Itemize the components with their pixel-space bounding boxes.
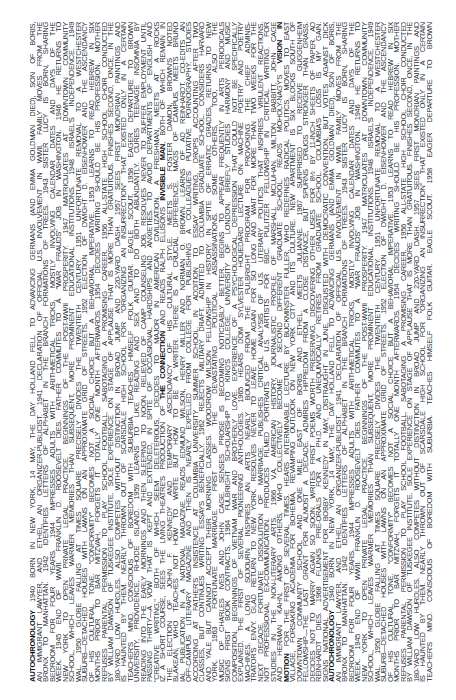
text-segment: REINHARDT DIES. 1968 FLUNKS PRE-ORALS FO… [316, 22, 323, 682]
text-line: VILLAGE, FORSAKING ACADEMIA FOR BOHEMIA,… [290, 22, 297, 682]
text-line: REINHARDT DIES. 1968 FLUNKS PRE-ORALS FO… [316, 22, 323, 682]
text-segment: 1940 BORN IN NEW YORK, 14 MAY, THE DAY H… [30, 22, 37, 610]
text-segment: AND READS RALPH ELLISON'S [160, 201, 167, 331]
text-segment: WEEK. 1945 END OF WWII. FRANKLIN D. ROOS… [56, 22, 63, 682]
highlighted-term: THE CONNECTION [160, 331, 167, 399]
text-line: WEEK. 1945 END OF WWII. FRANKLIN D. ROOS… [56, 22, 63, 682]
text-segment: SUBURB—DETACHED HOUSES WITH LAWNS ON AN … [381, 22, 388, 682]
text-line: AUTOCHRONOLOGY 1940 BORN IN NEW YORK, 14… [329, 22, 336, 682]
text-line: SUBURB—DETACHED HOUSES WITH LAWNS ON AN … [381, 22, 388, 682]
text-line: BRONX TO MANHATTAN. 1942 IDENTIFIES LETT… [43, 22, 50, 682]
text-line: IS HAUNTED BY THEM. NEARLY THROWN OUT OF… [121, 22, 128, 682]
text-segment: IS HAUNTED BY THEM. NEARLY THROWN OUT OF… [121, 22, 128, 682]
text-line: FELLOWSHIP—THE LAST GRANT FOR ALMOST A D… [303, 22, 310, 682]
document-page: AUTOCHRONOLOGY 1940 BORN IN NEW YORK, 14… [0, 0, 456, 700]
text-line: BRONX TO MANHATTAN. 1942 IDENTIFIES LETT… [342, 22, 349, 682]
text-segment: BRONX TO MANHATTAN. 1942 IDENTIFIES LETT… [43, 22, 50, 682]
text-segment: BRONX TO MANHATTAN. 1942 IDENTIFIES LETT… [342, 22, 349, 682]
text-segment: YORK. 1963 FORTUNATE MARRIAGE. FIRST OF … [212, 22, 219, 682]
text-line: UNIVERSITY, PROVIDENCE, RHODE ISLAND. 19… [134, 22, 141, 682]
text-segment: OFF-CAMPUS LITERARY MAGAZINE AND THEN IS… [186, 22, 193, 682]
text-line: BLAKEAN, WHO TEACHES NOT HOW TO WRITE BU… [173, 22, 180, 682]
text-segment: BY WILLIAM DAWSON OF TUSKEGEE INSTITUTE.… [108, 22, 115, 682]
text-segment: PASSING THIRTY—A VOW THAT IS KEPT AND EX… [147, 22, 154, 682]
text-line: SCHOOL, WHICH LEAVES WARMER MEMORIES THA… [69, 22, 76, 682]
text-line: MONTHS PRIOR TO BAR MITZVAH, FORGETS IT … [95, 22, 102, 682]
text-line: BY WILLIAM DAWSON OF TUSKEGEE INSTITUTE.… [407, 22, 414, 682]
text-segment: FELLOWSHIP—THE LAST GRANT FOR ALMOST A D… [303, 22, 310, 682]
highlighted-term: AUTOCHRONOLOGY [329, 610, 336, 682]
text-line: IS HAUNTED BY THEM. NEARLY THROWN OUT OF… [420, 22, 427, 682]
text-segment: VILLAGE, FORSAKING ACADEMIA FOR BOHEMIA,… [290, 22, 297, 682]
text-segment: SIGNS FIRST BOOK CONTRACTS. 1964 FULBRIG… [225, 22, 232, 682]
text-line: NOT PROFESSIONAL EX-COMMUNICATION. PRODU… [264, 22, 271, 682]
text-segment: UNIVERSITY, PROVIDENCE, RHODE ISLAND. 19… [134, 22, 141, 682]
text-segment: SCHOOL, WHICH LEAVES WARMER MEMORIES THA… [368, 22, 375, 682]
text-segment: NOT PROFESSIONAL EX-COMMUNICATION. PRODU… [264, 22, 271, 682]
highlighted-term: VISION IN [277, 22, 284, 64]
text-segment: AND HERMAN KAHN, AMONG OTHERS, WHO COLLE… [277, 64, 284, 682]
text-line: TRATOR'S ENVY. GLAD RETURN TO NEW YORK. … [251, 22, 258, 682]
highlighted-term: INVISIBLE MAN [160, 144, 167, 201]
text-line: CLASSES, BUT CONTINUES WRITING ESSAYS BE… [199, 22, 206, 682]
text-line: OFF-CAMPUS LITERARY MAGAZINE AND THEN IS… [186, 22, 193, 682]
text-line: WEEK. 1945 END OF WWII. FRANKLIN D. ROOS… [355, 22, 362, 682]
text-line: AUTOCHRONOLOGY 1940 BORN IN NEW YORK, 14… [30, 22, 37, 682]
text-segment: TRATOR'S ENVY. GLAD RETURN TO NEW YORK. … [251, 22, 258, 682]
text-segment: SUBURB—DETACHED HOUSES WITH LAWNS ON AN … [82, 22, 89, 682]
text-line: SIGNS FIRST BOOK CONTRACTS. 1964 FULBRIG… [225, 22, 232, 682]
text-line: BY WILLIAM DAWSON OF TUSKEGEE INSTITUTE.… [108, 22, 115, 682]
text-line: PASSING THIRTY—A VOW THAT IS KEPT AND EX… [147, 22, 154, 682]
text-line: AND HERMAN KAHN, AMONG OTHERS, WHO COLLE… [277, 22, 284, 682]
text-segment: 1940 BORN IN NEW YORK, 14 MAY, THE DAY H… [329, 22, 336, 610]
text-line: SUBURB—DETACHED HOUSES WITH LAWNS ON AN … [82, 22, 89, 682]
text-line: IZ A SHORT COURSE, SEES THE LIVING THEAT… [160, 22, 167, 682]
text-line: TEACHER'S MIND. CONSCIOUS OF BOREDOM WIT… [426, 22, 433, 682]
text-segment: TEACHER'S MIND. CONSCIOUS OF BOREDOM WIT… [426, 22, 433, 682]
text-line: YORK. 1963 FORTUNATE MARRIAGE. FIRST OF … [212, 22, 219, 682]
text-line: EXPLAINED. THE FIRST OF SEVERAL PIONEERI… [238, 22, 245, 682]
text-segment: IS HAUNTED BY THEM. NEARLY THROWN OUT OF… [420, 22, 427, 682]
text-segment: EXPLAINED. THE FIRST OF SEVERAL PIONEERI… [238, 22, 245, 682]
text-segment: BY WILLIAM DAWSON OF TUSKEGEE INSTITUTE.… [407, 22, 414, 682]
text-segment: IZ A SHORT COURSE, SEES THE LIVING THEAT… [160, 399, 167, 682]
text-segment: MONTHS PRIOR TO BAR MITZVAH, FORGETS IT … [95, 22, 102, 682]
text-line: MONTHS PRIOR TO BAR MITZVAH, FORGETS IT … [394, 22, 401, 682]
text-segment: MONTHS PRIOR TO BAR MITZVAH, FORGETS IT … [394, 22, 401, 682]
highlighted-term: AUTOCHRONOLOGY [30, 610, 37, 682]
autochronology-text-block: AUTOCHRONOLOGY 1940 BORN IN NEW YORK, 14… [30, 22, 434, 682]
text-segment: BLAKEAN, WHO TEACHES NOT HOW TO WRITE BU… [173, 22, 180, 682]
text-segment: CLASSES, BUT CONTINUES WRITING ESSAYS BE… [199, 22, 206, 682]
text-line: SCHOOL, WHICH LEAVES WARMER MEMORIES THA… [368, 22, 375, 682]
text-segment: SCHOOL, WHICH LEAVES WARMER MEMORIES THA… [69, 22, 76, 682]
text-segment: WEEK. 1945 END OF WWII. FRANKLIN D. ROOS… [355, 22, 362, 682]
text-segment: , BOTH OF WHICH REMAIN IN [160, 22, 167, 144]
